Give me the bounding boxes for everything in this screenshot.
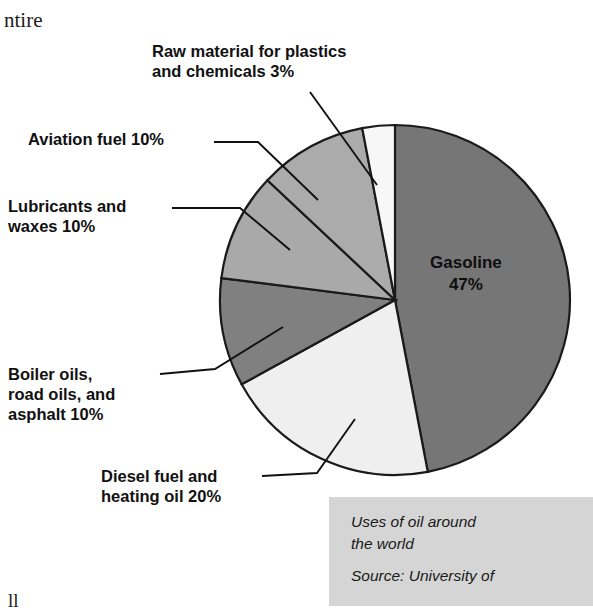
slice-label-lubricants-and-waxes: Lubricants and waxes 10% bbox=[8, 196, 126, 236]
figure-caption-box: Uses of oil around the world Source: Uni… bbox=[329, 497, 593, 606]
slice-label-gasoline: Gasoline 47% bbox=[430, 252, 502, 296]
figure-caption-title: Uses of oil around the world bbox=[351, 511, 593, 556]
pie-slice-gasoline[interactable] bbox=[395, 125, 570, 472]
slice-label-boiler-oils: Boiler oils, road oils, and asphalt 10% bbox=[8, 364, 115, 424]
slice-label-raw-material: Raw material for plastics and chemicals … bbox=[152, 41, 346, 81]
slice-label-diesel-fuel: Diesel fuel and heating oil 20% bbox=[101, 466, 221, 506]
slice-label-aviation-fuel: Aviation fuel 10% bbox=[28, 129, 164, 149]
figure-caption-source: Source: University of bbox=[351, 565, 593, 587]
page-text-fragment-bottom: ll bbox=[8, 590, 19, 611]
